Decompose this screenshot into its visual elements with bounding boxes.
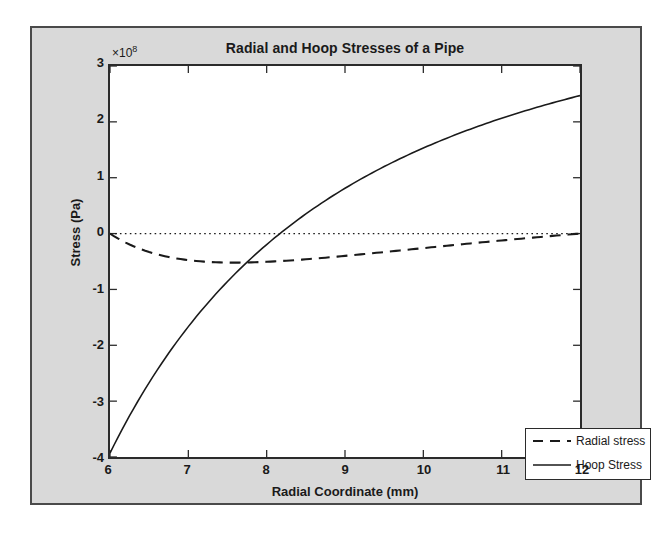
y-axis-exponent-base: ×10 [112, 46, 132, 60]
x-tick-label: 10 [409, 462, 439, 477]
y-axis-exponent-power: 8 [132, 44, 137, 54]
x-tick-label: 11 [488, 462, 518, 477]
legend-sample-dashed-line [532, 435, 572, 447]
y-tick-label: -3 [74, 394, 104, 409]
x-tick-label: 12 [567, 462, 597, 477]
y-axis-exponent-label: ×108 [112, 44, 137, 60]
legend-entry-radial-stress: Radial stress [526, 429, 650, 453]
x-tick-label: 7 [172, 462, 202, 477]
y-axis-tick-labels: 3210-1-2-3-4 [72, 64, 104, 459]
radial-stress-curve [110, 234, 580, 263]
plot-axes-area: Radial stress Hoop Stress [108, 64, 582, 459]
y-tick-label: 1 [74, 168, 104, 183]
x-axis-title: Radial Coordinate (mm) [108, 484, 582, 499]
legend-label-radial-stress: Radial stress [572, 434, 645, 448]
x-tick-label: 8 [251, 462, 281, 477]
y-tick-label: 2 [74, 111, 104, 126]
plot-canvas [110, 66, 580, 457]
y-tick-label: 3 [74, 55, 104, 70]
chart-title: Radial and Hoop Stresses of a Pipe [108, 40, 582, 56]
matlab-figure-panel: Radial and Hoop Stresses of a Pipe ×108 … [30, 26, 642, 505]
axis-tick-marks [110, 66, 580, 457]
y-tick-label: -2 [74, 337, 104, 352]
x-tick-label: 9 [330, 462, 360, 477]
figure-screenshot: Radial and Hoop Stresses of a Pipe ×108 … [0, 0, 661, 536]
x-tick-label: 6 [93, 462, 123, 477]
y-tick-label: 0 [74, 224, 104, 239]
hoop-stress-curve [110, 96, 580, 453]
x-axis-tick-labels: 6789101112 [108, 462, 582, 482]
y-tick-label: -1 [74, 281, 104, 296]
